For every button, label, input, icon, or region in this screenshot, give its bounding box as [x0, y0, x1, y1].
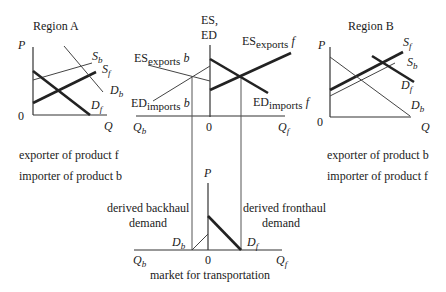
- excess-x-right-label: Qf: [278, 120, 291, 136]
- region-a-caption-exporter: exporter of product f: [19, 148, 119, 162]
- region-b-sf-label: Sf: [403, 35, 413, 51]
- transport-caption: market for transportation: [150, 268, 270, 282]
- region-b-x-axis-label: Q: [421, 120, 430, 134]
- transport-y-axis-label: P: [203, 166, 212, 180]
- ed-imports-f-curve: [210, 59, 268, 93]
- fronthaul-label-line2: demand: [262, 216, 300, 230]
- es-exports-b-curve: [148, 65, 210, 81]
- region-a-y-axis-label: P: [17, 38, 26, 52]
- region-b-sb-label: Sb: [407, 55, 418, 71]
- excess-y-axis-label-line2: ED: [201, 28, 217, 42]
- region-a-sf-curve: [33, 72, 96, 103]
- ed-imports-b-curve: [153, 66, 210, 101]
- region-b-title: Region B: [348, 19, 394, 33]
- region-b-caption-exporter: exporter of product b: [327, 148, 429, 162]
- excess-x-left-label: Qb: [133, 120, 147, 136]
- region-a-panel: Region A P 0 Q Sb Sf Db Df exporter of p…: [17, 19, 124, 183]
- region-a-sf-label: Sf: [102, 62, 112, 78]
- transport-db-label: Db: [171, 235, 186, 251]
- trade-transport-diagram: Region A P 0 Q Sb Sf Db Df exporter of p…: [0, 0, 446, 292]
- ed-imports-b-label: EDimportsb: [131, 96, 190, 112]
- region-b-panel: Region B P 0 Q Sf Sb Df Db exporter of p…: [317, 19, 430, 183]
- transport-df-label: Df: [246, 235, 260, 251]
- fronthaul-label-line1: derived fronthaul: [243, 201, 327, 215]
- region-a-title: Region A: [33, 19, 79, 33]
- es-exports-f-curve: [210, 53, 291, 90]
- transport-x-left-label: Qb: [133, 253, 147, 269]
- region-a-df-curve: [33, 71, 90, 115]
- transport-market-panel: P derived backhaul demand derived fronth…: [107, 166, 327, 282]
- fronthaul-demand-curve: [208, 216, 241, 250]
- region-b-origin: 0: [317, 115, 323, 129]
- region-b-db-curve: [330, 57, 410, 116]
- es-exports-f-label: ESexportsf: [242, 34, 296, 50]
- region-b-y-axis-label: P: [317, 38, 326, 52]
- region-a-origin: 0: [18, 109, 24, 123]
- excess-y-axis-label-line1: ES,: [201, 13, 218, 27]
- es-exports-b-label: ESexportsb: [134, 51, 189, 67]
- transport-x-right-label: Qf: [276, 253, 289, 269]
- backhaul-demand-curve: [192, 234, 208, 250]
- region-a-caption-importer: importer of product b: [19, 169, 122, 183]
- transport-origin: 0: [205, 253, 211, 267]
- region-b-sb-curve: [330, 63, 395, 96]
- backhaul-label-line2: demand: [129, 216, 167, 230]
- region-a-db-label: Db: [109, 83, 124, 99]
- region-a-x-axis-label: Q: [104, 119, 113, 133]
- region-b-caption-importer: importer of product f: [327, 169, 428, 183]
- backhaul-label-line1: derived backhaul: [107, 201, 190, 215]
- excess-origin: 0: [206, 120, 212, 134]
- region-a-df-label: Df: [90, 98, 104, 114]
- region-b-db-label: Db: [410, 98, 425, 114]
- ed-imports-f-label: EDimportsf: [253, 95, 311, 111]
